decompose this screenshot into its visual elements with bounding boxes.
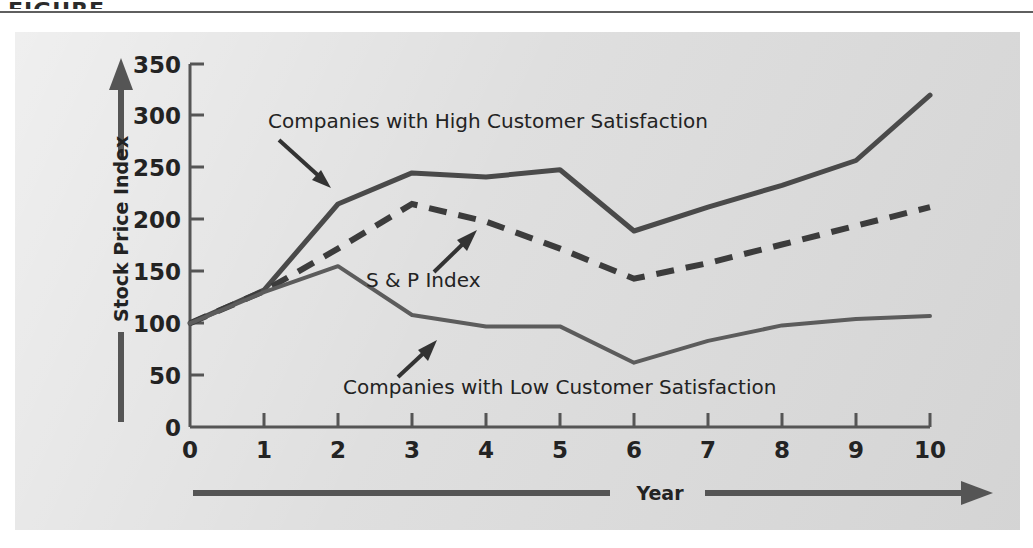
x-tick-label-6: 6 — [626, 437, 642, 463]
x-tick-label-5: 5 — [552, 437, 568, 463]
x-tick-label-1: 1 — [256, 437, 272, 463]
x-tick-label-8: 8 — [774, 437, 790, 463]
header-divider-rule — [0, 11, 1033, 13]
x-tick-label-4: 4 — [478, 437, 494, 463]
annotation-sp-index-text: S & P Index — [366, 268, 481, 292]
x-axis-direction-arrow-right — [705, 481, 993, 505]
y-tick-label-150: 150 — [133, 259, 181, 285]
y-tick-label-200: 200 — [133, 207, 181, 233]
y-tick-label-0: 0 — [165, 415, 181, 441]
y-tick-label-250: 250 — [133, 155, 181, 181]
x-axis-title: Year — [635, 482, 684, 504]
annotation-high-satisfaction-text: Companies with High Customer Satisfactio… — [268, 109, 708, 133]
line-chart-svg: Stock Price Index 350 300 250 200 150 10… — [15, 32, 1020, 530]
figure-header-clipped: FIGURE — [8, 0, 258, 9]
figure-page: FIGURE Stock Price Index — [0, 0, 1033, 548]
annotation-sp-index-arrow — [434, 230, 477, 272]
annotation-high-satisfaction-arrow — [279, 140, 331, 188]
y-tick-label-100: 100 — [133, 311, 181, 337]
x-tick-label-7: 7 — [700, 437, 716, 463]
y-tick-label-300: 300 — [133, 103, 181, 129]
y-axis-title: Stock Price Index — [110, 136, 132, 322]
y-axis-ticks — [190, 64, 204, 375]
series-line-low-satisfaction — [190, 266, 930, 363]
annotation-low-satisfaction-arrow — [398, 340, 437, 377]
x-axis-ticks — [264, 413, 930, 427]
x-tick-label-2: 2 — [330, 437, 346, 463]
chart-panel: Stock Price Index 350 300 250 200 150 10… — [15, 32, 1020, 530]
x-tick-label-10: 10 — [914, 437, 946, 463]
series-line-sp-index — [190, 204, 930, 323]
x-tick-label-3: 3 — [404, 437, 420, 463]
x-tick-label-0: 0 — [182, 437, 198, 463]
annotation-low-satisfaction-text: Companies with Low Customer Satisfaction — [343, 375, 776, 399]
y-tick-label-50: 50 — [149, 363, 181, 389]
x-tick-label-9: 9 — [848, 437, 864, 463]
y-tick-label-350: 350 — [133, 52, 181, 78]
